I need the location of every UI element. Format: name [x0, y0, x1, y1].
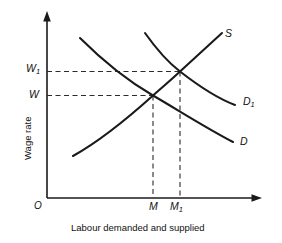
demand-curve-D: [80, 38, 233, 142]
chart-canvas: [0, 0, 282, 243]
x-tick-label-m: M: [149, 201, 158, 212]
origin-label: O: [34, 201, 42, 211]
x-axis-arrow-icon: [252, 194, 263, 202]
x-tick-label-m1-base: M: [170, 200, 179, 212]
x-axis-title: Labour demanded and supplied: [71, 222, 205, 233]
y-tick-label-w1-sub: 1: [36, 67, 40, 76]
curve-label-demand-shifted-base: D: [243, 95, 251, 107]
curve-label-demand-shifted-sub: 1: [251, 100, 255, 109]
demand-curve-D1: [145, 33, 235, 105]
curve-label-demand-shifted: D1: [243, 96, 255, 107]
y-axis-arrow-icon: [43, 11, 51, 22]
y-axis: [43, 11, 51, 198]
curve-label-demand: D: [240, 136, 248, 147]
curve-label-supply: S: [225, 28, 232, 39]
y-axis-title: Wage rate: [22, 117, 33, 160]
y-tick-label-w: W: [29, 89, 39, 100]
x-tick-label-m1: M1: [170, 201, 183, 212]
y-tick-label-w1: W1: [26, 63, 40, 74]
x-tick-label-m1-sub: 1: [179, 205, 183, 214]
y-tick-label-w1-base: W: [26, 62, 36, 74]
supply-demand-chart: Wage rate Labour demanded and supplied O…: [0, 0, 282, 243]
